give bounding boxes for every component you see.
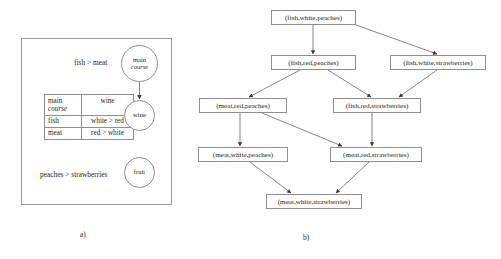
cp-node-main-course: main course [121, 45, 158, 82]
statement-main-course-preference: fish > meat [74, 58, 107, 67]
cp-node-fruit: fruit [124, 157, 155, 188]
pref-node-meat-red-strawberries: (meat,red,strawberries) [330, 147, 422, 162]
pref-node-fish-white-strawberries: (fish,white,strawberries) [390, 55, 486, 70]
table-cell-condition: fish [45, 115, 82, 127]
node-label: fruit [134, 169, 145, 176]
edge-n6-n8 [250, 162, 291, 193]
table-row: fish white > red [45, 115, 134, 127]
table-header-main-course: main course [45, 95, 82, 116]
edge-n2-n4 [249, 70, 300, 97]
header-line1: main [48, 97, 62, 105]
edge-n4-n7 [262, 113, 342, 146]
cp-table: main course wine fish white > red meat r… [44, 94, 134, 140]
table-cell-preference: red > white [82, 127, 134, 139]
edge-n3-n5 [399, 70, 437, 97]
header-line2: course [48, 105, 67, 113]
caption-a: a) [80, 230, 86, 239]
cp-node-wine: wine [124, 100, 155, 131]
pref-node-meat-red-peaches: (meat,red,peaches) [199, 98, 287, 113]
pref-node-fish-red-peaches: (fish,red,peaches) [271, 55, 356, 70]
edge-n7-n8 [336, 162, 369, 193]
statement-fruit-preference: peaches > strawberries [40, 170, 107, 179]
caption-b: b) [303, 233, 309, 242]
figure-root: fish > meat peaches > strawberries main … [0, 0, 501, 259]
pref-node-meat-white-strawberries: (meat,white,strawberries) [266, 194, 362, 209]
table-header-row: main course wine [45, 95, 134, 116]
node-label: wine [133, 112, 146, 119]
node-label-line2: course [131, 63, 149, 70]
pref-node-fish-red-strawberries: (fish,red,strawberries) [333, 98, 421, 113]
pref-node-meat-white-peaches: (meat,white,peaches) [198, 147, 288, 162]
edge-n2-n5 [328, 70, 371, 97]
table-row: meat red > white [45, 127, 134, 139]
table-cell-condition: meat [45, 127, 82, 139]
edge-n1-n3 [356, 25, 437, 54]
pref-node-fish-white-peaches: (fish,white,peaches) [271, 10, 356, 25]
